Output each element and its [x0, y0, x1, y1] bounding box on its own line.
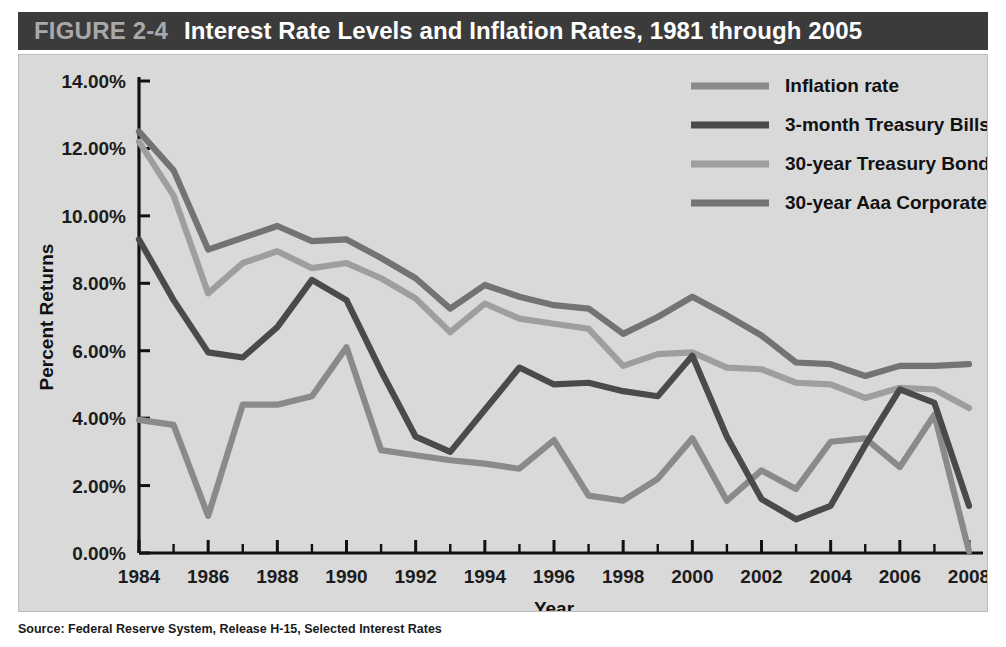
chart-area: 0.00%2.00%4.00%6.00%8.00%10.00%12.00%14.… [19, 55, 987, 611]
x-axis-tick-label: 1994 [464, 566, 507, 587]
chart-axes: 0.00%2.00%4.00%6.00%8.00%10.00%12.00%14.… [62, 71, 987, 587]
x-axis-tick-label: 1998 [602, 566, 644, 587]
x-axis-tick-label: 1988 [256, 566, 298, 587]
figure-title-band: FIGURE 2-4 Interest Rate Levels and Infl… [18, 12, 988, 50]
figure-title-text: Interest Rate Levels and Inflation Rates… [184, 17, 862, 45]
x-axis-tick-label: 1984 [118, 566, 161, 587]
line-chart-svg: 0.00%2.00%4.00%6.00%8.00%10.00%12.00%14.… [19, 55, 987, 611]
y-axis-tick-label: 4.00% [72, 408, 126, 429]
figure-page: FIGURE 2-4 Interest Rate Levels and Infl… [0, 0, 1006, 647]
x-axis-tick-label: 1990 [325, 566, 367, 587]
legend-label: 30-year Treasury Bonds [785, 153, 987, 174]
y-axis-tick-label: 6.00% [72, 341, 126, 362]
x-axis-tick-label: 2006 [879, 566, 921, 587]
y-axis-title: Percent Returns [36, 244, 57, 391]
y-axis-tick-label: 8.00% [72, 273, 126, 294]
y-axis-tick-label: 0.00% [72, 543, 126, 564]
x-axis-tick-label: 1996 [533, 566, 575, 587]
x-axis-tick-label: 1992 [395, 566, 437, 587]
x-axis-tick-label: 1986 [187, 566, 229, 587]
figure-source-note: Source: Federal Reserve System, Release … [18, 622, 442, 636]
chart-legend: Inflation rate3-month Treasury Bills30-y… [691, 75, 987, 213]
x-axis-tick-label: 2000 [671, 566, 713, 587]
y-axis-tick-label: 10.00% [62, 206, 127, 227]
series-line [139, 347, 969, 551]
series-line [139, 239, 969, 519]
figure-number-label: FIGURE 2-4 [34, 17, 168, 45]
legend-label: 30-year Aaa Corporate Bonds [785, 192, 987, 213]
x-axis-tick-label: 2008 [948, 566, 987, 587]
legend-label: Inflation rate [785, 75, 899, 96]
x-axis-title: Year [534, 598, 575, 611]
legend-label: 3-month Treasury Bills [785, 114, 987, 135]
chart-panel: 0.00%2.00%4.00%6.00%8.00%10.00%12.00%14.… [18, 54, 988, 612]
y-axis-tick-label: 2.00% [72, 476, 126, 497]
y-axis-tick-label: 14.00% [62, 71, 127, 92]
y-axis-tick-label: 12.00% [62, 138, 127, 159]
x-axis-tick-label: 2002 [740, 566, 782, 587]
x-axis-tick-label: 2004 [810, 566, 853, 587]
